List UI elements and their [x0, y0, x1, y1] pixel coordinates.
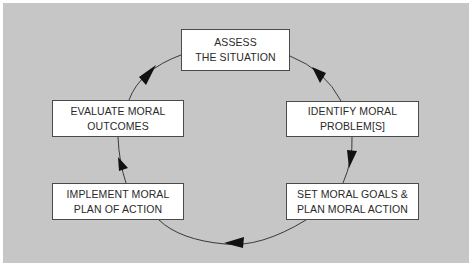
node-set-moral-goals: SET MORAL GOALS & PLAN MORAL ACTION: [286, 183, 419, 220]
node-label-line: PLAN OF ACTION: [74, 202, 162, 217]
arrowhead-down-right-icon: [312, 67, 326, 83]
node-label-line: OUTCOMES: [87, 119, 148, 134]
edge-evaluate-to-assess: [129, 55, 181, 100]
node-identify-moral-problems: IDENTIFY MORAL PROBLEM[S]: [286, 101, 419, 137]
node-label-line: IMPLEMENT MORAL: [67, 187, 170, 202]
node-label-line: PROBLEM[S]: [320, 119, 385, 134]
node-label-line: EVALUATE MORAL: [71, 104, 166, 119]
node-assess-the-situation: ASSESS THE SITUATION: [181, 29, 290, 71]
node-implement-moral-plan: IMPLEMENT MORAL PLAN OF ACTION: [52, 183, 184, 220]
arrowhead-left-icon: [224, 237, 244, 248]
node-label-line: SET MORAL GOALS &: [297, 187, 408, 202]
node-label-line: THE SITUATION: [195, 50, 275, 65]
node-evaluate-moral-outcomes: EVALUATE MORAL OUTCOMES: [52, 100, 184, 137]
arrowhead-down-icon: [347, 150, 357, 168]
arrowhead-up-icon: [118, 157, 128, 171]
node-label-line: ASSESS: [214, 35, 257, 50]
edge-assess-to-identify: [290, 56, 341, 101]
node-label-line: PLAN MORAL ACTION: [297, 202, 408, 217]
arrowhead-up-right-icon: [139, 65, 156, 85]
node-label-line: IDENTIFY MORAL: [308, 104, 397, 119]
